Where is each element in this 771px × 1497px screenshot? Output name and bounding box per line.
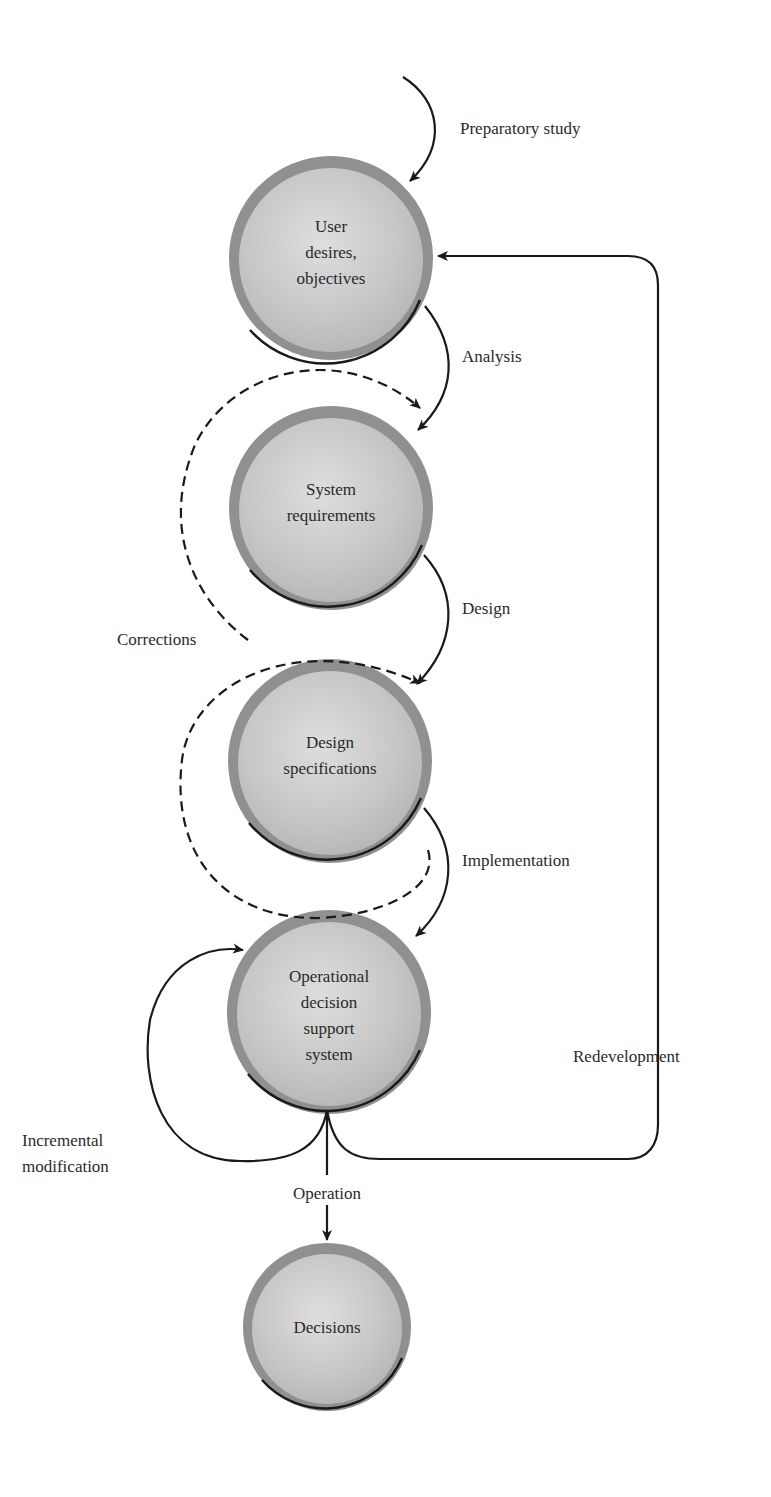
node-user-line3: objectives	[297, 269, 366, 288]
label-operation: Operation	[293, 1184, 361, 1203]
diagram-canvas: User desires, objectives System requirem…	[0, 0, 771, 1497]
label-implementation: Implementation	[462, 851, 570, 870]
node-decisions-label: Decisions	[293, 1318, 360, 1337]
node-operational-dss	[227, 910, 431, 1114]
node-odss-line2: decision	[301, 993, 358, 1012]
node-odss-line3: support	[304, 1019, 355, 1038]
label-corrections: Corrections	[117, 630, 196, 649]
node-odss-line1: Operational	[289, 967, 370, 986]
label-incremental-1: Incremental	[22, 1131, 103, 1150]
arrow-analysis	[418, 306, 449, 430]
arrow-preparatory	[403, 77, 435, 181]
label-design: Design	[462, 599, 511, 618]
node-user-line2: desires,	[305, 243, 356, 262]
node-odss-line4: system	[305, 1045, 352, 1064]
label-incremental-2: modification	[22, 1157, 109, 1176]
arrow-implementation	[416, 808, 448, 936]
node-designspec-line2: specifications	[283, 759, 376, 778]
node-user-line1: User	[315, 217, 347, 236]
node-designspec-line1: Design	[306, 733, 355, 752]
label-analysis: Analysis	[462, 347, 522, 366]
arrow-design	[417, 555, 448, 684]
node-sysreq-line2: requirements	[287, 506, 376, 525]
label-redevelopment: Redevelopment	[573, 1047, 680, 1066]
label-preparatory: Preparatory study	[460, 119, 581, 138]
node-sysreq-line1: System	[306, 480, 356, 499]
